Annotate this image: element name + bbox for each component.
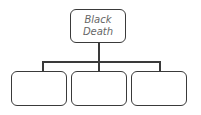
connector-horizontal [42,61,161,63]
connector-vertical-right [159,61,161,71]
root-node: Black Death [70,9,126,43]
child-node-3[interactable] [131,71,187,106]
connector-vertical-left [42,61,44,71]
connector-vertical-root [98,43,100,62]
connector-vertical-middle [98,61,100,71]
root-label-line2: Death [83,26,113,38]
root-label-line1: Black [84,14,111,26]
child-node-2[interactable] [71,71,127,106]
child-node-1[interactable] [11,71,67,106]
